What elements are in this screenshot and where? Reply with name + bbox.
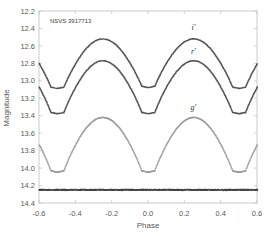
x-tick-label: -0.2: [105, 209, 118, 218]
series-g-band: [39, 117, 258, 172]
series-labels: i'r'g': [191, 23, 197, 112]
x-tick-label: -0.4: [69, 209, 82, 218]
y-tick-label: 13.2: [20, 94, 35, 103]
y-tick-label: 13.8: [20, 146, 35, 155]
light-curve-chart: 12.212.412.612.813.013.213.413.613.814.0…: [0, 0, 270, 237]
data-series: [39, 39, 258, 191]
y-axis: 12.212.412.612.813.013.213.413.613.814.0…: [20, 7, 257, 208]
y-tick-label: 14.4: [20, 199, 35, 208]
y-tick-label: 14.0: [20, 164, 35, 173]
x-axis: -0.6-0.4-0.20.00.20.40.6: [33, 11, 263, 218]
x-axis-title: Phase: [137, 221, 160, 230]
x-tick-label: 0.2: [179, 209, 189, 218]
x-tick-label: 0.4: [215, 209, 225, 218]
series-i-band: [39, 39, 258, 89]
y-tick-label: 13.4: [20, 111, 35, 120]
y-tick-label: 12.2: [20, 7, 35, 16]
series-label: r': [191, 47, 196, 56]
y-tick-label: 12.6: [20, 42, 35, 51]
star-id-annotation: NSVS 3917713: [50, 18, 92, 24]
series-label: i': [191, 23, 195, 32]
y-tick-label: 13.6: [20, 129, 35, 138]
plot-area: [39, 11, 257, 203]
y-tick-label: 12.4: [20, 24, 35, 33]
y-axis-title: Magnitude: [2, 89, 11, 127]
y-tick-label: 13.0: [20, 76, 35, 85]
x-tick-label: -0.6: [33, 209, 46, 218]
series-label: g': [191, 103, 197, 112]
y-tick-label: 12.8: [20, 59, 35, 68]
y-tick-label: 14.2: [20, 181, 35, 190]
series-comparison: [39, 189, 258, 190]
x-tick-label: 0.6: [252, 209, 262, 218]
x-tick-label: 0.0: [143, 209, 153, 218]
